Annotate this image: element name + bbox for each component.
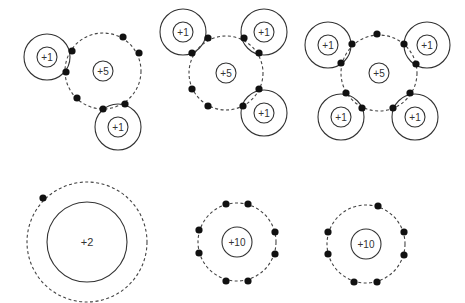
electron-dot <box>135 49 142 56</box>
charge-label: +1 <box>177 27 189 38</box>
electron-dot <box>188 49 195 56</box>
charge-label: +1 <box>258 108 270 119</box>
hydrogen-atom: +1 <box>241 90 287 136</box>
electron-dot <box>195 226 202 233</box>
electron-dot <box>119 33 126 40</box>
hydrogen-atom: +1 <box>404 22 450 68</box>
electron-dot <box>358 104 365 111</box>
charge-label: +1 <box>409 112 421 123</box>
electron-dot <box>271 228 278 235</box>
electron-dot <box>62 68 69 75</box>
hydrogen-atom: +1 <box>392 94 438 140</box>
charge-label: +1 <box>112 122 124 133</box>
charge-label: +10 <box>229 237 246 248</box>
electron-dot <box>99 105 106 112</box>
ion-plus-10-b: +10 <box>324 202 407 285</box>
electron-dot <box>271 250 278 257</box>
electron-dot <box>324 250 331 257</box>
electron-dot <box>239 102 246 109</box>
electron-dot <box>406 89 413 96</box>
charge-label: +2 <box>81 236 94 248</box>
electron-dot <box>400 251 407 258</box>
electron-dot <box>348 40 355 47</box>
electron-dot <box>389 104 396 111</box>
electron-dot <box>222 277 229 284</box>
molecule-1: +1+1+5 <box>24 33 143 150</box>
charge-label: +1 <box>322 40 334 51</box>
hydrogen-atom: +1 <box>241 9 287 55</box>
electron-dot <box>373 278 380 285</box>
electron-dot <box>244 277 251 284</box>
electron-dot <box>342 89 349 96</box>
central-atom: +5 <box>189 36 263 110</box>
electron-dot <box>204 102 211 109</box>
molecule-2: +1+1+1+5 <box>160 9 287 136</box>
charge-label: +1 <box>258 27 270 38</box>
molecule-3: +1+1+1+1+5 <box>305 22 450 140</box>
electron-dot <box>68 47 75 54</box>
charge-label: +5 <box>373 68 385 79</box>
electron-dot <box>412 60 419 67</box>
electron-dot <box>373 30 380 37</box>
charge-label: +10 <box>358 239 375 250</box>
electron-dot <box>374 202 381 209</box>
electron-dot <box>255 49 262 56</box>
ion-plus-2: +2 <box>27 182 147 302</box>
electron-dot-diagram: +1+1+5+1+1+1+5+1+1+1+1+5+2+10+10 <box>0 0 465 303</box>
electron-dot <box>73 94 80 101</box>
hydrogen-atom: +1 <box>305 22 351 68</box>
electron-dot <box>255 85 262 92</box>
charge-label: +1 <box>41 52 53 63</box>
electron-dot <box>195 249 202 256</box>
electron-dot <box>121 100 128 107</box>
ion-plus-10-a: +10 <box>195 200 278 284</box>
electron-dot <box>337 59 344 66</box>
hydrogen-atom: +1 <box>318 94 364 140</box>
charge-label: +1 <box>421 40 433 51</box>
charge-label: +5 <box>97 66 109 77</box>
electron-dot <box>39 194 46 201</box>
electron-dot <box>350 278 357 285</box>
electron-dot <box>400 40 407 47</box>
charge-label: +5 <box>220 68 232 79</box>
charge-label: +1 <box>335 112 347 123</box>
electron-dot <box>188 85 195 92</box>
electron-dot <box>324 228 331 235</box>
electron-dot <box>240 34 247 41</box>
electron-dot <box>244 200 251 207</box>
electron-dot <box>400 228 407 235</box>
electron-dot <box>204 34 211 41</box>
electron-dot <box>222 200 229 207</box>
